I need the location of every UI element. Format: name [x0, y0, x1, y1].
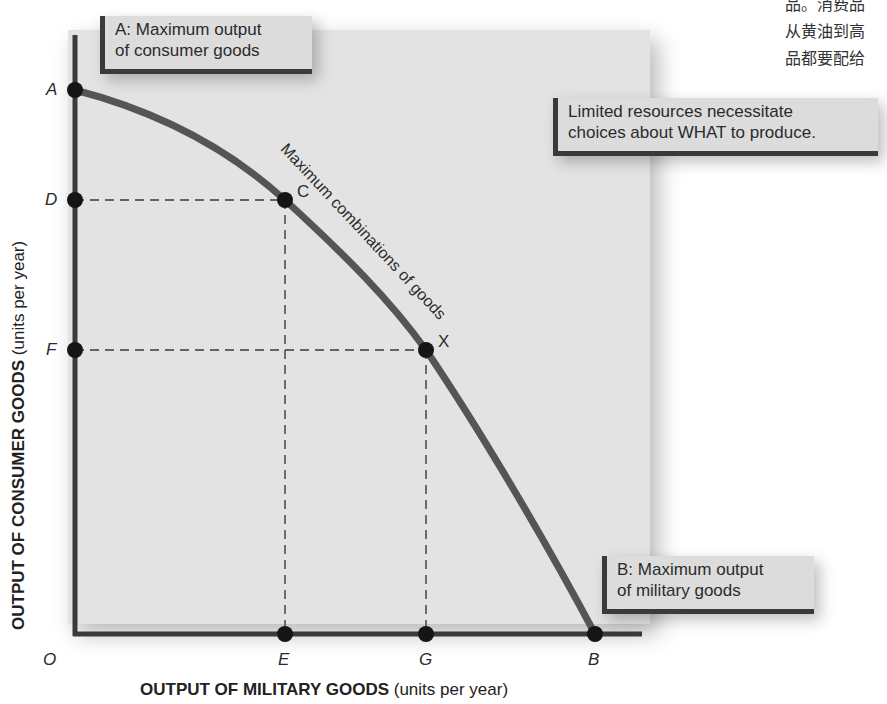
label-D: D [45, 190, 57, 210]
y-axis-title-bold: OUTPUT OF CONSUMER GOODS [9, 360, 28, 630]
y-axis-title-units: (units per year) [9, 241, 28, 360]
label-B: B [588, 650, 599, 670]
label-X: X [438, 332, 449, 352]
x-axis-title-bold: OUTPUT OF MILITARY GOODS [140, 680, 389, 699]
callout-limited-line2: choices about WHAT to produce. [568, 122, 870, 143]
callout-max-consumer: A: Maximum output of consumer goods [100, 16, 312, 74]
callout-b-line1: B: Maximum output [617, 559, 806, 580]
point-E [277, 626, 293, 642]
point-C [277, 192, 293, 208]
point-X [418, 342, 434, 358]
callout-limited-line1: Limited resources necessitate [568, 101, 870, 122]
label-G: G [419, 650, 432, 670]
point-G [418, 626, 434, 642]
dashed-guides [75, 200, 426, 634]
production-possibilities-curve [75, 90, 595, 634]
y-axis-title: OUTPUT OF CONSUMER GOODS (units per year… [9, 241, 29, 630]
x-axis-title-units: (units per year) [389, 680, 508, 699]
callout-a-line2: of consumer goods [115, 40, 304, 61]
callout-b-line2: of military goods [617, 580, 806, 601]
data-points [67, 82, 603, 642]
callout-max-military: B: Maximum output of military goods [602, 556, 814, 614]
callout-limited-resources: Limited resources necessitate choices ab… [553, 98, 878, 156]
x-axis-title: OUTPUT OF MILITARY GOODS (units per year… [140, 680, 508, 700]
point-B [587, 626, 603, 642]
point-F [67, 342, 83, 358]
label-origin: O [43, 650, 56, 670]
label-F: F [46, 340, 56, 360]
label-E: E [278, 650, 289, 670]
label-A: A [46, 80, 57, 100]
point-A [67, 82, 83, 98]
point-D [67, 192, 83, 208]
callout-a-line1: A: Maximum output [115, 19, 304, 40]
